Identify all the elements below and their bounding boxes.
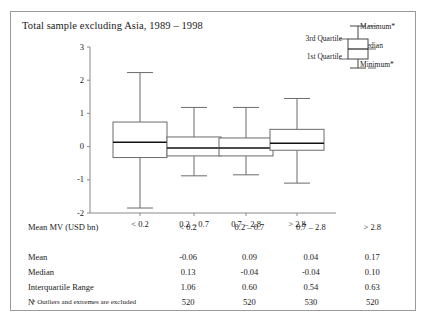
table-cell: 0.10: [342, 264, 403, 279]
table-cell: 0.54: [280, 279, 341, 294]
table-body: Mean MV (USD bn)< 0.20.2 – 0.70.7 – 2.8>…: [28, 219, 403, 309]
table-cell: < 0.2: [157, 219, 218, 234]
table-row-label: Mean: [28, 249, 157, 264]
legend: 3rd Quartile 1st Quartile Maximum* Media…: [288, 22, 416, 76]
table-row-label: Interquartile Range: [28, 279, 157, 294]
table-cell: 1.06: [157, 279, 218, 294]
table-header-label: Mean MV (USD bn): [28, 219, 157, 234]
table-cell: 0.7 – 2.8: [280, 219, 341, 234]
table-cell: 530: [280, 294, 341, 309]
legend-boxplot-icon: [288, 22, 416, 76]
table-row: Mean MV (USD bn)< 0.20.2 – 0.70.7 – 2.8>…: [28, 219, 403, 234]
table-cell: 0.17: [342, 249, 403, 264]
table-cell: 520: [342, 294, 403, 309]
table-cell: 0.09: [219, 249, 280, 264]
table-cell: -0.04: [219, 264, 280, 279]
summary-statistics-table: Mean MV (USD bn)< 0.20.2 – 0.70.7 – 2.8>…: [28, 219, 403, 309]
table-cell: 0.13: [157, 264, 218, 279]
table-cell: 0.04: [280, 249, 341, 264]
footnote: * Outliers and extremes are excluded: [32, 298, 136, 306]
table-cell: 0.2 – 0.7: [219, 219, 280, 234]
table-row: Mean-0.060.090.040.17: [28, 249, 403, 264]
table-cell: > 2.8: [342, 219, 403, 234]
table-cell: -0.06: [157, 249, 218, 264]
table-cell: 0.63: [342, 279, 403, 294]
table-cell: 520: [157, 294, 218, 309]
table-cell: 520: [219, 294, 280, 309]
figure-page: Total sample excluding Asia, 1989 – 1998…: [0, 0, 427, 321]
table-row: Interquartile Range1.060.600.540.63: [28, 279, 403, 294]
table-spacer-row: [28, 234, 403, 249]
chart-title: Total sample excluding Asia, 1989 – 1998: [22, 20, 203, 31]
table-row: Median0.13-0.04-0.040.10: [28, 264, 403, 279]
table-cell: 0.60: [219, 279, 280, 294]
table-row-label: Median: [28, 264, 157, 279]
table-cell: -0.04: [280, 264, 341, 279]
